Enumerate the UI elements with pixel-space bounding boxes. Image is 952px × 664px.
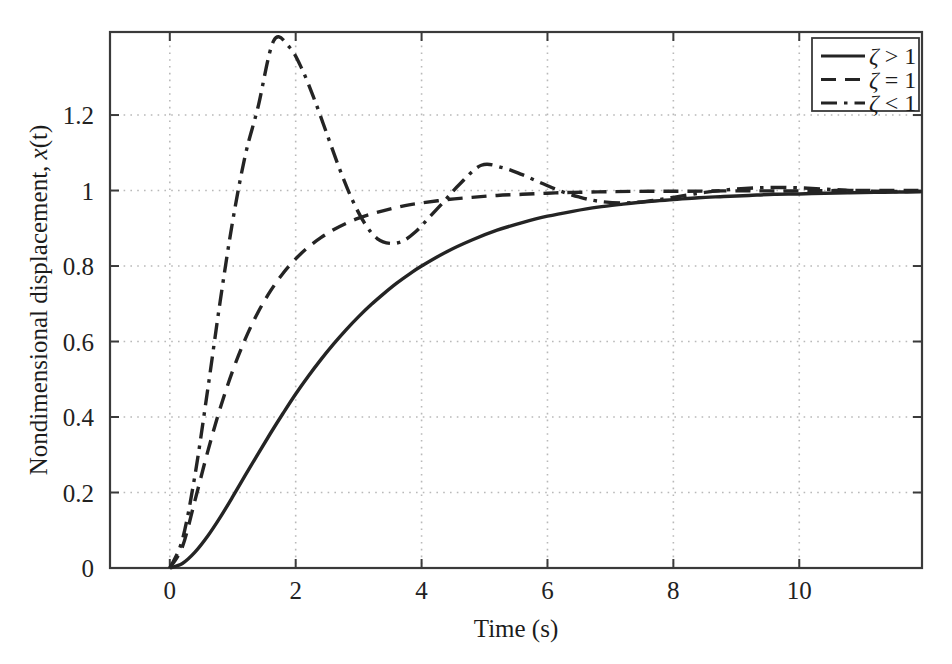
- x-tick-label: 4: [415, 577, 428, 604]
- data-series-group: [170, 37, 922, 568]
- legend-label-1: ζ = 1: [869, 67, 916, 93]
- x-tick-labels: 0246810: [164, 577, 812, 604]
- y-tick-label: 1: [82, 178, 95, 205]
- data-series-zeta-greater-than-one: [170, 192, 922, 568]
- legend-label-0: ζ > 1: [869, 43, 916, 69]
- data-series-zeta-less-than-one: [170, 37, 922, 568]
- x-tick-label: 6: [541, 577, 554, 604]
- figure-container: 0246810 00.20.40.60.811.2 Time (s) Nondi…: [0, 0, 952, 664]
- gridlines: [110, 32, 922, 568]
- y-tick-labels: 00.20.40.60.811.2: [63, 102, 95, 582]
- y-tick-label: 0.6: [63, 329, 94, 356]
- y-tick-label: 0.8: [63, 253, 94, 280]
- x-axis-title: Time (s): [474, 615, 559, 643]
- data-series-zeta-equals-one: [170, 191, 922, 568]
- y-tick-label: 0.4: [63, 404, 95, 431]
- chart-canvas: 0246810 00.20.40.60.811.2 Time (s) Nondi…: [0, 0, 952, 664]
- y-axis-title: Nondimensional displacement, x(t): [25, 125, 53, 476]
- y-tick-label: 0: [82, 555, 95, 582]
- legend: ζ > 1ζ = 1ζ < 1: [812, 38, 919, 116]
- x-tick-label: 8: [667, 577, 680, 604]
- axis-ticks: [110, 32, 922, 568]
- x-tick-label: 10: [787, 577, 812, 604]
- plot-frame: [110, 32, 922, 568]
- legend-label-2: ζ < 1: [869, 90, 916, 116]
- y-tick-label: 1.2: [63, 102, 94, 129]
- y-tick-label: 0.2: [63, 480, 94, 507]
- x-tick-label: 0: [164, 577, 177, 604]
- x-tick-label: 2: [289, 577, 302, 604]
